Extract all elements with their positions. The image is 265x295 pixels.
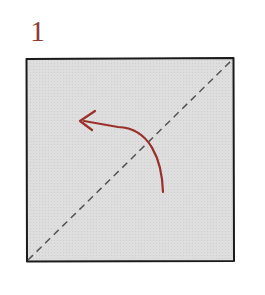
origami-fold-diagram: [0, 0, 265, 295]
